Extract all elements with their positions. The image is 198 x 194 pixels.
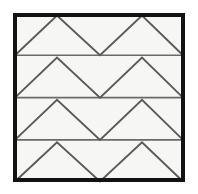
zigzag-band-figure <box>0 0 198 194</box>
figure-container: Zigzag triangle band pattern A square ou… <box>0 0 198 194</box>
